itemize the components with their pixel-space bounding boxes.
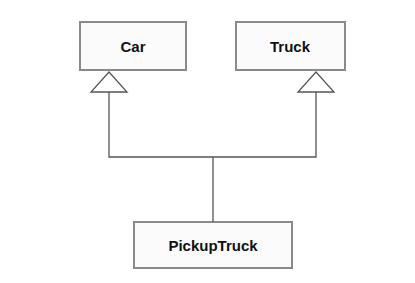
class-diagram: Car Truck PickupTruck xyxy=(0,0,415,283)
generalization-arrow-icon xyxy=(298,72,334,92)
generalization-arrow-icon xyxy=(91,72,127,92)
class-box-car: Car xyxy=(80,22,186,70)
inheritance-connector xyxy=(109,92,316,222)
car-class-name: Car xyxy=(120,38,145,55)
inheritance-branch-line xyxy=(109,92,316,157)
class-box-truck: Truck xyxy=(236,22,345,70)
pickuptruck-class-name: PickupTruck xyxy=(168,237,258,254)
class-box-pickuptruck: PickupTruck xyxy=(134,222,292,268)
truck-class-name: Truck xyxy=(270,38,311,55)
